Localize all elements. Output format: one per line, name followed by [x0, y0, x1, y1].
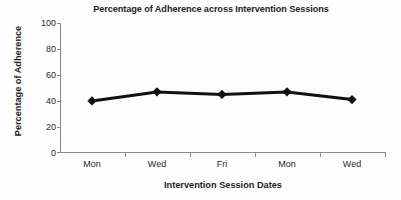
data-point-marker-1 — [87, 96, 96, 105]
plot-area — [0, 0, 401, 200]
data-point-marker-4 — [282, 87, 291, 96]
data-point-marker-3 — [217, 90, 226, 99]
data-point-marker-2 — [152, 87, 161, 96]
y-tick-marks — [57, 24, 60, 153]
data-point-marker-5 — [347, 95, 356, 104]
x-tick-marks — [126, 153, 386, 158]
chart-figure: Percentage of Adherence across Intervent… — [0, 0, 401, 200]
